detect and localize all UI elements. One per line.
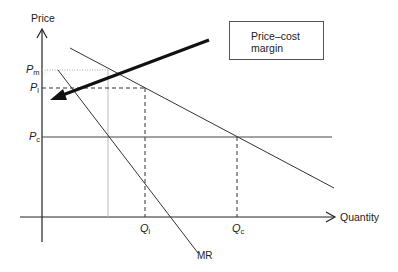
callout-text: Price–cost margin <box>251 30 300 54</box>
price-cost-margin-callout: Price–cost margin <box>229 21 324 60</box>
mr-label: MR <box>197 250 213 261</box>
x-axis-label: Quantity <box>340 211 380 223</box>
qc-label: Qc <box>232 222 245 236</box>
pl-label: Pl <box>30 81 39 95</box>
y-axis-label: Price <box>31 12 55 24</box>
mr-curve <box>58 70 198 253</box>
callout-line-1: Price–cost <box>251 30 300 42</box>
ql-label: Ql <box>140 222 151 236</box>
callout-arrowhead <box>50 89 67 100</box>
demand-curve <box>70 48 334 188</box>
market-diagram: Price Quantity Pm Pl Pc Ql Qc MR <box>0 0 398 272</box>
callout-line-2: margin <box>251 42 300 54</box>
pc-label: Pc <box>29 130 40 144</box>
pm-label: Pm <box>26 63 40 77</box>
